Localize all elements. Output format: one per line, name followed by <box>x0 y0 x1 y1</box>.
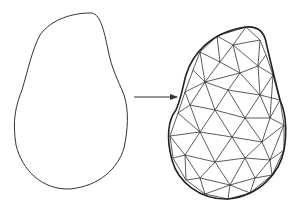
mesh-edge <box>245 158 270 160</box>
mesh-edge <box>185 155 215 162</box>
mesh-edge <box>230 185 250 193</box>
mesh-edge <box>232 137 245 158</box>
mesh-edge <box>217 36 220 62</box>
mesh-edge <box>245 95 260 118</box>
mesh-edge <box>233 45 240 73</box>
mesh-edge <box>185 155 200 178</box>
mesh-edge <box>232 137 262 142</box>
mesh-edge <box>228 185 230 199</box>
mesh-edge <box>185 132 200 155</box>
mesh-edge <box>258 55 266 66</box>
mesh-edge <box>240 66 258 73</box>
mesh-edge <box>233 40 260 45</box>
mesh-edge <box>186 180 205 194</box>
mesh-edge <box>185 155 186 180</box>
mesh-edge <box>230 158 245 185</box>
mesh-edge <box>185 92 190 105</box>
mesh-edge <box>205 185 230 194</box>
mesh-edge <box>272 150 284 175</box>
mesh-edge <box>173 155 185 158</box>
mesh-edge <box>205 82 215 110</box>
mesh-edge <box>200 132 215 162</box>
mesh-edge <box>232 118 245 137</box>
mesh-edge <box>217 36 233 45</box>
mesh-diagram <box>0 0 297 214</box>
mesh-edge <box>178 105 190 113</box>
mesh-edge <box>258 66 260 95</box>
diagram-canvas <box>0 0 297 214</box>
mesh-edge <box>260 75 273 95</box>
mesh-edge <box>228 90 260 95</box>
mesh-edge <box>270 118 284 125</box>
mesh-edge <box>270 160 272 175</box>
mesh-edge <box>200 162 215 178</box>
mesh-edge <box>215 90 228 110</box>
mesh-edge <box>240 73 260 95</box>
mesh-edge <box>200 52 220 62</box>
mesh-edge <box>255 160 270 178</box>
mesh-edge <box>215 162 230 185</box>
mesh-edge <box>262 118 270 142</box>
mesh-edge <box>205 82 228 90</box>
mesh-edge <box>200 178 205 194</box>
mesh-edge <box>215 158 245 162</box>
mesh-edge <box>170 132 200 136</box>
domain-boundary-shape <box>14 13 127 189</box>
mesh-edge <box>260 95 270 118</box>
mesh-edge <box>258 40 260 66</box>
mesh-edge <box>262 142 270 160</box>
mesh-edge <box>233 45 258 66</box>
mesh-edge <box>258 66 273 75</box>
mesh-edge <box>190 105 215 110</box>
mesh-edge <box>220 45 233 62</box>
mesh-edge <box>245 118 262 142</box>
mesh-edge <box>270 100 280 118</box>
mesh-edge <box>215 137 232 162</box>
triangulated-mesh <box>170 27 284 199</box>
mesh-edge <box>200 132 232 137</box>
mesh-edge <box>200 178 230 185</box>
mesh-edge <box>270 75 273 118</box>
mesh-edge <box>170 113 178 136</box>
mesh-edge <box>245 142 262 158</box>
mesh-edge <box>260 95 280 100</box>
mesh-edge <box>245 158 255 178</box>
mesh-edge <box>186 178 200 180</box>
mesh-edge <box>260 40 266 55</box>
mesh-edge <box>200 110 215 132</box>
mesh-edge <box>220 62 240 73</box>
